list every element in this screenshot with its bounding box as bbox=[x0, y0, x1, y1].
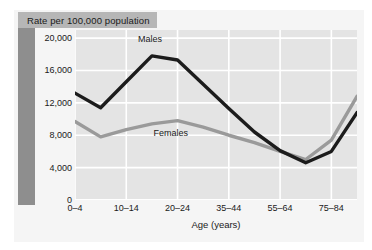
y-axis-tick-label: 16,000 bbox=[20, 65, 72, 75]
x-axis-title: Age (years) bbox=[75, 219, 357, 230]
y-axis-tick-label: 8,000 bbox=[20, 130, 72, 140]
y-axis-tick-labels: 04,0008,00012,00016,00020,000 bbox=[16, 30, 72, 200]
series-annotation-females: Females bbox=[154, 128, 189, 138]
x-axis-tick-labels: 0–410–1420–2435–4455–6475–84 bbox=[75, 203, 357, 217]
y-axis-tick-label: 4,000 bbox=[20, 163, 72, 173]
x-axis-tick-label: 35–44 bbox=[216, 203, 241, 213]
gridlines-horizontal bbox=[75, 38, 357, 200]
series-annotation-males: Males bbox=[138, 34, 162, 44]
series-line-males bbox=[75, 56, 357, 163]
y-axis-tick-label: 0 bbox=[20, 195, 72, 205]
chart-figure: Rate per 100,000 population 04,0008,0001… bbox=[0, 0, 372, 250]
y-axis-tick-label: 12,000 bbox=[20, 98, 72, 108]
x-axis-tick-label: 20–24 bbox=[165, 203, 190, 213]
y-axis-tick-label: 20,000 bbox=[20, 33, 72, 43]
x-axis-tick-label: 75–84 bbox=[319, 203, 344, 213]
chart-title-banner: Rate per 100,000 population bbox=[18, 12, 157, 28]
gridlines-vertical bbox=[75, 30, 331, 200]
series-line-females bbox=[75, 96, 357, 159]
x-axis-tick-label: 0–4 bbox=[67, 203, 82, 213]
plot-area bbox=[75, 30, 357, 200]
x-axis-tick-label: 55–64 bbox=[268, 203, 293, 213]
x-axis-tick-label: 10–14 bbox=[114, 203, 139, 213]
chart-svg bbox=[75, 30, 357, 200]
